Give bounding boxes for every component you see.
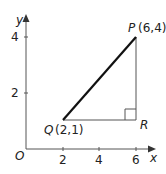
x-axis-label: x [149, 151, 158, 165]
y-tick-label-2: 2 [11, 86, 19, 100]
y-axis-arrow-icon [23, 14, 30, 22]
y-axis-label: y [15, 13, 24, 27]
point-P-coords: (6,4) [138, 21, 166, 35]
right-angle-marker [125, 109, 136, 120]
x-tick-label-2: 2 [59, 153, 67, 167]
y-tick-label-4: 4 [11, 30, 19, 44]
x-tick-label-4: 4 [95, 153, 103, 167]
point-Q-name: Q [44, 123, 53, 137]
point-R-name: R [140, 118, 148, 132]
x-tick-label-6: 6 [132, 153, 140, 167]
origin-label: O [15, 149, 24, 163]
point-P-name: P [128, 21, 136, 35]
coordinate-diagram: y x O 2 4 6 2 4 P (6,4) Q (2,1) R [0, 0, 166, 174]
point-Q-coords: (2,1) [55, 123, 83, 137]
segment-QP [63, 37, 136, 120]
